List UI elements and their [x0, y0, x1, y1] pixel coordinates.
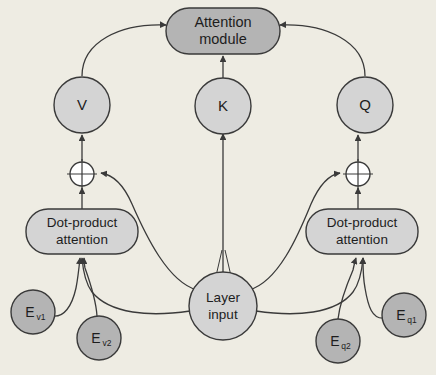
node-dotproduct-right[interactable]: Dot-product attention	[306, 209, 418, 254]
node-k[interactable]: K	[195, 78, 251, 134]
node-q[interactable]: Q	[337, 77, 393, 133]
attention-module-label-line2: module	[199, 31, 247, 47]
node-v[interactable]: V	[54, 77, 110, 133]
attention-architecture-diagram: Attention module V K Q	[0, 0, 436, 375]
node-e-v2[interactable]: E v2	[77, 316, 121, 360]
node-e-q2[interactable]: E q2	[316, 319, 360, 363]
edge-eq2-to-dotproduct-right	[338, 258, 356, 319]
node-attention-module[interactable]: Attention module	[166, 8, 280, 54]
node-sum-left[interactable]	[67, 159, 97, 189]
v-label: V	[77, 96, 87, 113]
q-label: Q	[359, 96, 371, 113]
e-q1-label-base: E	[396, 307, 405, 323]
dotproduct-left-label-line2: attention	[56, 232, 108, 247]
edge-v-to-attention-module	[82, 25, 166, 76]
k-label: K	[218, 97, 228, 114]
edge-layer-input-to-dotproduct-left	[82, 258, 190, 314]
layer-input-label-line1: Layer	[206, 290, 240, 305]
node-sum-right[interactable]	[343, 159, 373, 189]
e-q1-label-sub: q1	[407, 315, 417, 325]
node-layer-input[interactable]: Layer input	[189, 272, 257, 340]
edge-ev1-to-dotproduct-left	[52, 258, 80, 316]
edge-ev2-to-dotproduct-left	[84, 258, 97, 316]
dotproduct-left-label-line1: Dot-product	[47, 215, 118, 230]
sum-right-plus-icon	[343, 159, 373, 189]
node-e-q1[interactable]: E q1	[382, 293, 426, 337]
e-v1-label-sub: v1	[37, 312, 46, 322]
edge-eq1-to-dotproduct-right	[363, 258, 385, 318]
node-e-v1[interactable]: E v1	[11, 290, 55, 334]
dotproduct-right-label-line1: Dot-product	[327, 215, 398, 230]
e-q2-label-base: E	[330, 333, 339, 349]
layer-input-label-line2: input	[208, 307, 238, 322]
node-dotproduct-left[interactable]: Dot-product attention	[26, 209, 138, 254]
dotproduct-right-label-line2: attention	[336, 232, 388, 247]
sum-left-plus-icon	[67, 159, 97, 189]
attention-module-label-line1: Attention	[194, 14, 251, 30]
edge-q-to-attention-module	[280, 25, 365, 76]
e-v1-label-base: E	[25, 304, 34, 320]
e-q2-label-sub: q2	[341, 341, 351, 351]
diagram-canvas: Attention module V K Q	[0, 0, 436, 375]
e-v2-label-sub: v2	[103, 338, 112, 348]
e-v2-label-base: E	[91, 330, 100, 346]
